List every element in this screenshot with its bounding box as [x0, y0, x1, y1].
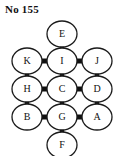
graph-node: B — [12, 104, 42, 130]
graph-node: E — [47, 21, 77, 47]
node-label: E — [59, 28, 65, 39]
node-label: K — [23, 55, 31, 66]
graph-node: I — [47, 48, 77, 74]
graph-node: C — [47, 76, 77, 102]
node-label: J — [95, 55, 99, 66]
graph-node: D — [82, 76, 112, 102]
graph-node: A — [82, 104, 112, 130]
node-label: A — [93, 111, 101, 122]
node-label: F — [59, 139, 65, 150]
node-label: B — [24, 111, 31, 122]
node-label: C — [59, 83, 66, 94]
graph-node: G — [47, 104, 77, 130]
node-label: D — [93, 83, 100, 94]
graph-diagram: EKIJHCDBGAF — [0, 0, 123, 156]
graph-node: F — [47, 132, 77, 156]
graph-node: J — [82, 48, 112, 74]
node-label: G — [58, 111, 65, 122]
node-label: H — [23, 83, 30, 94]
puzzle-figure: No 155 EKIJHCDBGAF — [0, 0, 123, 156]
graph-node: H — [12, 76, 42, 102]
node-layer: EKIJHCDBGAF — [12, 21, 112, 156]
graph-node: K — [12, 48, 42, 74]
node-label: I — [60, 55, 63, 66]
